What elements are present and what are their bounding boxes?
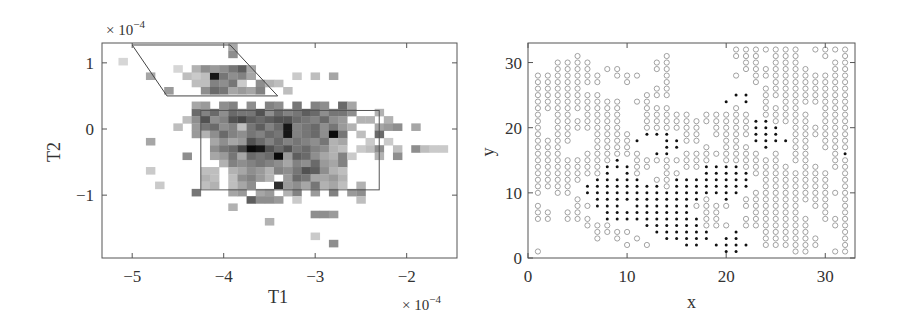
open-circle-point <box>773 73 778 78</box>
open-circle-point <box>575 79 580 84</box>
heatmap-cell <box>219 160 228 168</box>
heatmap-cell <box>311 152 320 160</box>
open-circle-point <box>803 112 808 117</box>
open-circle-point <box>535 216 540 221</box>
open-circle-point <box>714 203 719 208</box>
heatmap-cell <box>274 80 283 88</box>
heatmap-cell <box>274 123 283 131</box>
open-circle-point <box>803 86 808 91</box>
open-circle-point <box>783 229 788 234</box>
heatmap-cell <box>173 65 182 73</box>
open-circle-point <box>535 79 540 84</box>
open-circle-point <box>793 53 798 58</box>
open-circle-point <box>724 119 729 124</box>
heatmap-cell <box>201 116 210 124</box>
filled-dot-point <box>645 191 648 194</box>
open-circle-point <box>783 79 788 84</box>
y-axis-label: y <box>478 148 498 157</box>
heatmap-cell <box>292 196 301 204</box>
open-circle-point <box>585 119 590 124</box>
filled-dot-point <box>636 204 639 207</box>
open-circle-point <box>595 125 600 130</box>
open-circle-point <box>565 138 570 143</box>
open-circle-point <box>803 242 808 247</box>
heatmap-cell <box>292 174 301 182</box>
filled-dot-point <box>784 139 787 142</box>
open-circle-point <box>664 66 669 71</box>
heatmap-cell <box>301 131 310 139</box>
open-circle-point <box>545 106 550 111</box>
open-circle-point <box>605 106 610 111</box>
open-circle-point <box>793 158 798 163</box>
open-circle-point <box>624 138 629 143</box>
open-circle-point <box>813 47 818 52</box>
open-circle-point <box>753 151 758 156</box>
open-circle-point <box>823 106 828 111</box>
filled-dot-point <box>655 191 658 194</box>
heatmap-cell <box>265 138 274 146</box>
filled-dot-point <box>754 120 757 123</box>
heatmap-cell <box>256 116 265 124</box>
heatmap-cell <box>192 72 201 80</box>
filled-dot-point <box>645 204 648 207</box>
open-circle-point <box>724 151 729 156</box>
open-circle-point <box>842 184 847 189</box>
open-circle-point <box>733 158 738 163</box>
open-circle-point <box>823 216 828 221</box>
open-circle-point <box>803 73 808 78</box>
heatmap-cell <box>237 109 246 117</box>
filled-dot-point <box>774 139 777 142</box>
open-circle-point <box>783 60 788 65</box>
open-circle-point <box>803 229 808 234</box>
heatmap-cell <box>274 102 283 110</box>
open-circle-point <box>605 223 610 228</box>
open-circle-point <box>704 197 709 202</box>
heatmap-cell <box>274 138 283 146</box>
filled-dot-point <box>596 204 599 207</box>
open-circle-point <box>783 203 788 208</box>
open-circle-point <box>803 79 808 84</box>
heatmap-cell <box>256 109 265 117</box>
open-circle-point <box>585 151 590 156</box>
open-circle-point <box>704 210 709 215</box>
filled-dot-point <box>626 185 629 188</box>
open-circle-point <box>733 151 738 156</box>
heatmap-cell <box>237 72 246 80</box>
open-circle-point <box>684 119 689 124</box>
open-circle-point <box>763 171 768 176</box>
heatmap-cell <box>311 102 320 110</box>
filled-dot-point <box>725 237 728 240</box>
open-circle-point <box>585 79 590 84</box>
heatmap-cell <box>274 196 283 204</box>
heatmap-cell <box>320 123 329 131</box>
open-circle-point <box>823 203 828 208</box>
heatmap-cell <box>283 131 292 139</box>
open-circle-point <box>555 73 560 78</box>
open-circle-point <box>842 138 847 143</box>
open-circle-point <box>535 158 540 163</box>
heatmap-cell <box>265 109 274 117</box>
open-circle-point <box>773 151 778 156</box>
filled-dot-point <box>626 191 629 194</box>
x-tick-label: −2 <box>398 267 416 286</box>
open-circle-point <box>555 177 560 182</box>
heatmap-cell <box>237 182 246 190</box>
heatmap-cell <box>210 131 219 139</box>
heatmap-cell <box>210 167 219 175</box>
heatmap-cell <box>320 109 329 117</box>
open-circle-point <box>783 119 788 124</box>
open-circle-point <box>803 223 808 228</box>
filled-dot-point <box>596 178 599 181</box>
open-circle-point <box>535 125 540 130</box>
heatmap-cell <box>201 174 210 182</box>
open-circle-point <box>743 66 748 71</box>
heatmap-cell <box>228 87 237 95</box>
open-circle-point <box>724 132 729 137</box>
heatmap-cell <box>219 116 228 124</box>
open-circle-point <box>535 106 540 111</box>
open-circle-point <box>595 151 600 156</box>
filled-dot-point <box>695 217 698 220</box>
scatter-chart: 01020300102030xy <box>470 0 902 330</box>
open-circle-point <box>595 164 600 169</box>
filled-dot-point <box>754 139 757 142</box>
